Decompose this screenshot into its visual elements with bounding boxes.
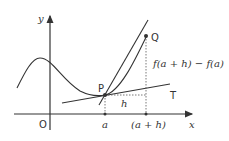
tangent-line bbox=[62, 84, 170, 103]
increment-h-label: h bbox=[121, 98, 127, 109]
point-q-label: Q bbox=[151, 32, 159, 43]
tick-a-label: a bbox=[102, 119, 108, 130]
tick-a-plus-h-label: (a + h) bbox=[131, 119, 166, 130]
tick-a-plus-h bbox=[145, 113, 148, 116]
y-axis-label: y bbox=[37, 13, 44, 24]
origin-label: O bbox=[39, 119, 47, 130]
function-curve bbox=[17, 35, 147, 96]
x-axis-label: x bbox=[189, 119, 195, 130]
diagram-canvas: y x O P Q T h a (a + h) f(a + h) − f(a) bbox=[0, 0, 229, 141]
rise-label: f(a + h) − f(a) bbox=[152, 58, 224, 69]
point-q bbox=[144, 34, 148, 38]
point-p-label: P bbox=[98, 83, 104, 94]
tangent-label: T bbox=[169, 90, 177, 101]
tick-a bbox=[104, 113, 107, 116]
